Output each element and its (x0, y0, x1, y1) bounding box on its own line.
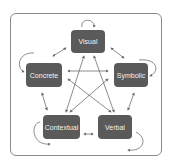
node-label: Visual (79, 38, 98, 45)
node-label: Concrete (30, 72, 58, 79)
node-contextual: Contextual (43, 115, 80, 139)
node-visual: Visual (71, 30, 105, 53)
node-label: Symbolic (117, 72, 145, 79)
edge-visual-concrete (53, 48, 66, 56)
edge-concrete-contextual (42, 93, 47, 110)
edge-visual-verbal (94, 56, 114, 112)
node-label: Verbal (105, 124, 125, 131)
self-loop-visual (82, 20, 94, 27)
node-label: Contextual (45, 124, 78, 131)
node-concrete: Concrete (26, 63, 62, 87)
edge-visual-symbolic (111, 48, 124, 58)
edge-symbolic-verbal (128, 93, 134, 110)
node-symbolic: Symbolic (114, 63, 148, 87)
node-verbal: Verbal (98, 115, 132, 139)
edge-symbolic-contextual (70, 79, 108, 112)
